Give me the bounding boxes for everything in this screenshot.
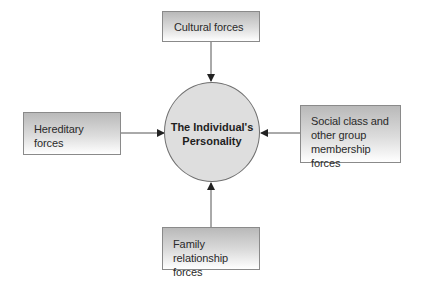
hereditary-forces-label: Hereditary forces <box>34 122 84 150</box>
social-class-forces-box: Social class and other group membership … <box>300 105 401 163</box>
social-class-forces-label: Social class and other group membership … <box>311 114 400 170</box>
cultural-forces-label: Cultural forces <box>174 20 243 34</box>
hereditary-forces-box: Hereditary forces <box>23 112 121 155</box>
cultural-forces-box: Cultural forces <box>162 11 260 42</box>
family-relationship-forces-box: Family relationship forces <box>162 227 260 270</box>
family-relationship-forces-label: Family relationship forces <box>173 237 259 279</box>
individual-personality-label: The Individual's Personality <box>165 120 259 148</box>
individual-personality-circle: The Individual's Personality <box>164 82 260 182</box>
